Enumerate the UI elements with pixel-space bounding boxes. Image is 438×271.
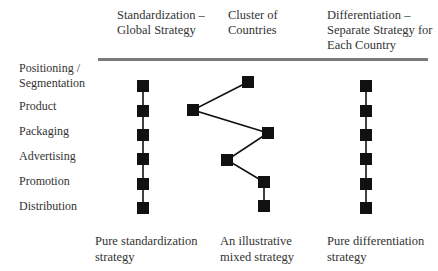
square-marker-icon — [137, 178, 149, 190]
square-marker-icon — [137, 202, 149, 214]
square-marker-icon — [137, 80, 149, 92]
series-mixed — [187, 76, 274, 212]
column-footer-mixed: An illustrative mixed strategy — [220, 233, 294, 265]
strategy-diagram — [0, 0, 438, 271]
square-marker-icon — [360, 178, 372, 190]
footer-line: Pure standardization — [95, 233, 197, 249]
square-marker-icon — [360, 202, 372, 214]
square-marker-icon — [262, 127, 274, 139]
square-marker-icon — [221, 154, 233, 166]
square-marker-icon — [258, 176, 270, 188]
square-marker-icon — [360, 80, 372, 92]
series-standardization — [137, 80, 149, 214]
square-marker-icon — [258, 200, 270, 212]
column-footer-standardization: Pure standardization strategy — [95, 233, 197, 265]
square-marker-icon — [137, 153, 149, 165]
square-marker-icon — [137, 129, 149, 141]
square-marker-icon — [360, 129, 372, 141]
square-marker-icon — [360, 153, 372, 165]
series-differentiation — [360, 80, 372, 214]
square-marker-icon — [187, 104, 199, 116]
column-footer-differentiation: Pure differentiation strategy — [327, 233, 424, 265]
connector-line — [193, 82, 268, 206]
footer-line: strategy — [327, 249, 424, 265]
footer-line: An illustrative — [220, 233, 294, 249]
square-marker-icon — [360, 105, 372, 117]
footer-line: Pure differentiation — [327, 233, 424, 249]
square-marker-icon — [242, 76, 254, 88]
footer-line: mixed strategy — [220, 249, 294, 265]
square-marker-icon — [137, 105, 149, 117]
footer-line: strategy — [95, 249, 197, 265]
